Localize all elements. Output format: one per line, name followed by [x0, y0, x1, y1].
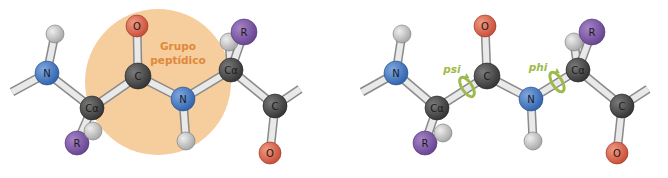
- peptide-group-label: Grupo: [160, 40, 196, 52]
- hydrogen-atom: [177, 132, 195, 150]
- r-group-label: R: [422, 138, 429, 149]
- nitrogen-label: N: [392, 68, 399, 79]
- carbonyl-carbon-label: C: [135, 71, 142, 82]
- right-bonds: [362, 26, 648, 153]
- carbonyl-carbon-label: C: [484, 71, 491, 82]
- carbonyl-carbon-label: C: [272, 101, 279, 112]
- oxygen-label: O: [613, 148, 621, 159]
- nitrogen-label: N: [527, 94, 534, 105]
- alpha-carbon-label: Cα: [430, 103, 444, 114]
- oxygen-label: O: [481, 21, 489, 32]
- hydrogen-atom: [84, 122, 102, 140]
- r-group-label: R: [241, 27, 248, 38]
- nitrogen-label: N: [43, 68, 50, 79]
- r-group-label: R: [74, 138, 81, 149]
- oxygen-label: O: [266, 148, 274, 159]
- peptide-group-label-2: peptídico: [150, 54, 205, 66]
- alpha-carbon-label: Cα: [224, 65, 238, 76]
- carbonyl-carbon-label: C: [619, 101, 626, 112]
- right-panel: psi phi N R Cα O C N R Cα O: [362, 15, 648, 164]
- r-group-label: R: [589, 27, 596, 38]
- psi-angle-label: psi: [442, 63, 461, 75]
- hydrogen-atom: [46, 25, 64, 43]
- hydrogen-atom: [434, 124, 452, 142]
- hydrogen-atom: [524, 132, 542, 150]
- alpha-carbon-label: Cα: [571, 65, 585, 76]
- oxygen-label: O: [133, 21, 141, 32]
- alpha-carbon-label: Cα: [85, 103, 99, 114]
- peptide-bond-diagram: Grupo peptídico N R Cα O C N R Cα O: [0, 0, 668, 178]
- nitrogen-label: N: [179, 94, 186, 105]
- hydrogen-atom: [393, 25, 411, 43]
- left-panel: Grupo peptídico N R Cα O C N R Cα O: [12, 9, 300, 164]
- phi-angle-label: phi: [528, 61, 548, 73]
